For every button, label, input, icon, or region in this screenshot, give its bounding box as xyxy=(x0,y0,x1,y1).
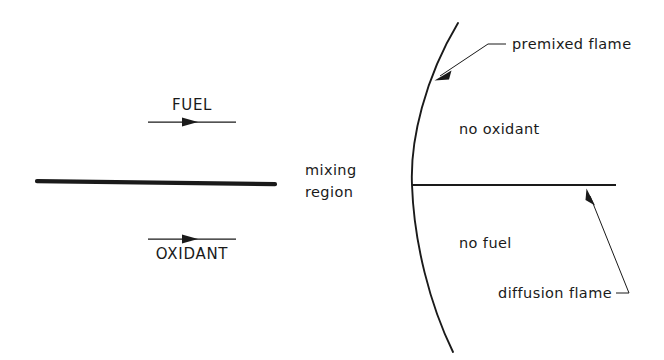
flame-diagram-canvas: FUEL OXIDANT mixing region xyxy=(0,0,664,360)
premixed-leader-path xyxy=(440,44,506,76)
diffusion-flame-label: diffusion flame xyxy=(498,285,612,301)
fuel-label: FUEL xyxy=(172,96,212,114)
oxidant-label: OXIDANT xyxy=(156,245,229,263)
premixed-flame-arc xyxy=(412,23,458,352)
oxidant-flow-arrow xyxy=(148,234,236,243)
splitter-plate-line xyxy=(37,181,275,184)
figure-root: FUEL OXIDANT mixing region xyxy=(0,0,664,360)
fuel-arrow-head-icon xyxy=(182,117,198,126)
mixing-region-label-line1: mixing xyxy=(305,162,357,178)
premixed-leader-arrow-head-icon xyxy=(435,71,452,81)
no-oxidant-label: no oxidant xyxy=(459,121,540,137)
oxidant-arrow-head-icon xyxy=(182,234,198,243)
premixed-flame-leader xyxy=(435,44,507,81)
premixed-flame-label: premixed flame xyxy=(512,36,631,52)
mixing-region-label-line2: region xyxy=(305,184,353,200)
diffusion-leader-arrow-head-icon xyxy=(586,189,596,206)
diffusion-flame-leader xyxy=(586,189,630,294)
diffusion-leader-path xyxy=(590,196,629,293)
right-panel-group: premixed flame no oxidant no fuel diffus… xyxy=(412,23,632,352)
left-panel-group: FUEL OXIDANT mixing region xyxy=(37,96,357,263)
fuel-flow-arrow xyxy=(148,117,236,126)
no-fuel-label: no fuel xyxy=(459,235,512,251)
